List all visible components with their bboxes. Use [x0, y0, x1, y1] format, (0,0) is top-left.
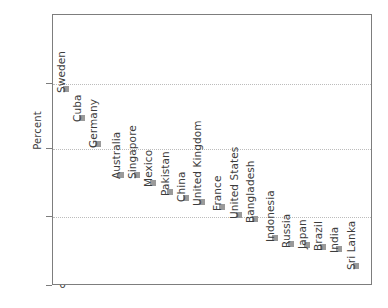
data-point-label: Mexico: [142, 150, 154, 187]
gridline: [53, 217, 371, 218]
gridline: [53, 84, 371, 85]
data-point-label: Australia: [110, 132, 122, 179]
data-point-label: Bangladesh: [244, 160, 256, 223]
data-point-label: Germany: [87, 99, 99, 148]
data-point-label: France: [211, 175, 223, 211]
data-point-label: Cuba: [71, 95, 83, 123]
data-point-label: Indonesia: [264, 190, 276, 242]
data-point-label: Sweden: [55, 51, 67, 93]
data-point-label: Russia: [280, 214, 292, 248]
data-point-label: China: [175, 172, 187, 203]
scatter-chart: Percent 4530150 SwedenCubaGermanyAustral…: [0, 0, 388, 308]
y-tick-mark: [46, 285, 52, 286]
data-point-label: United Kingdom: [191, 120, 203, 206]
data-point-label: Pakistan: [159, 151, 171, 196]
y-axis-title: Percent: [32, 96, 43, 166]
data-point-label: Sri Lanka: [345, 221, 357, 270]
plot-area: SwedenCubaGermanyAustraliaSingaporeMexic…: [52, 14, 372, 285]
data-point-label: Singapore: [126, 125, 138, 179]
data-point-label: India: [328, 227, 340, 253]
gridline: [53, 149, 371, 150]
data-point-label: Brazil: [312, 221, 324, 251]
data-point-label: Japan: [296, 219, 308, 249]
data-point-label: United States: [228, 147, 240, 219]
